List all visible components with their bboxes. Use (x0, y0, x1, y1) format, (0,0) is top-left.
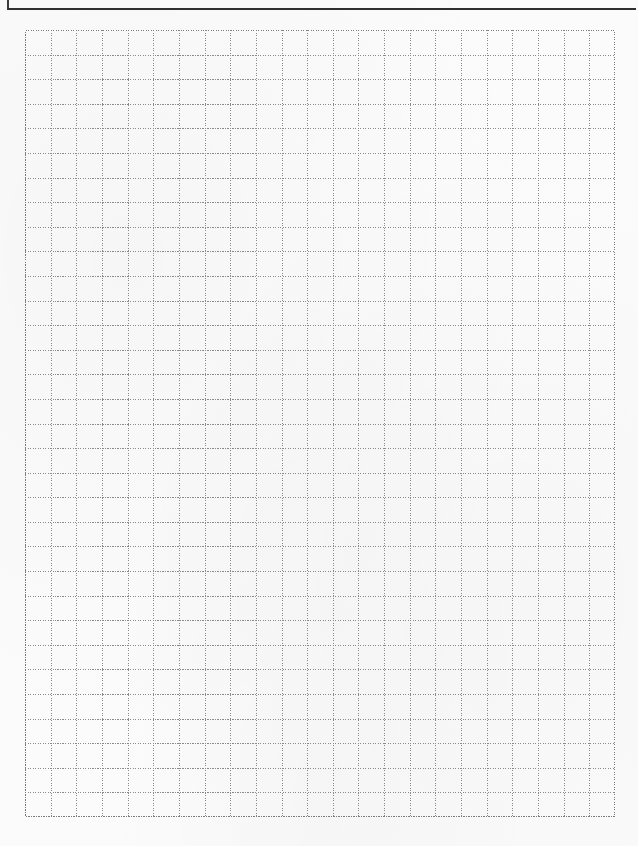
graph-grid (25, 30, 615, 817)
grid-canvas (25, 30, 615, 817)
header-frame (7, 0, 636, 10)
grid-border (26, 31, 615, 817)
